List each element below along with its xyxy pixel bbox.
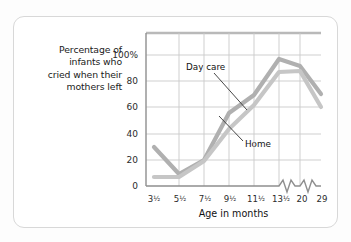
- chart-plot-area: [0, 0, 351, 242]
- x-axis-line-with-breaks: [146, 180, 321, 192]
- chart-page: Percentage of infants who cried when the…: [0, 0, 351, 242]
- leader-line-day-care: [214, 73, 247, 110]
